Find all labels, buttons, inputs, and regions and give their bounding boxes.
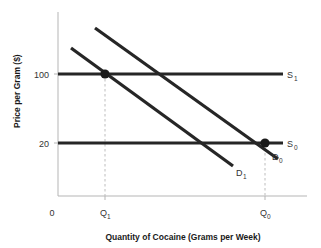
chart-canvas: Price per Gram ($) 100 20 0 Q 1 Q 0 Quan… — [0, 0, 321, 248]
x-tick-label-q1: Q 1 — [100, 208, 111, 220]
x-tick-label-q0-main: Q — [260, 208, 267, 218]
y-tick-label-100: 100 — [34, 70, 49, 80]
demand-curve-d0-label-main: D — [272, 152, 279, 162]
supply-curve-s0-label-main: S — [287, 139, 293, 149]
supply-curve-s0-label: S 0 — [287, 139, 298, 151]
demand-curve-d0 — [95, 28, 278, 159]
equilibrium-dot-q0 — [260, 138, 269, 147]
x-axis-title: Quantity of Cocaine (Grams per Week) — [105, 232, 260, 242]
y-axis-title: Price per Gram ($) — [12, 54, 22, 128]
demand-curve-d1 — [71, 48, 233, 166]
supply-curve-s1-label-sub: 1 — [294, 75, 298, 82]
x-tick-label-q1-main: Q — [100, 208, 107, 218]
x-tick-label-q1-sub: 1 — [107, 213, 111, 220]
x-tick-label-q0: Q 0 — [260, 208, 271, 220]
demand-curve-d1-label-sub: 1 — [243, 173, 247, 180]
x-tick-label-q0-sub: 0 — [267, 213, 271, 220]
y-tick-label-20: 20 — [39, 139, 49, 149]
demand-curve-d1-label-main: D — [236, 168, 243, 178]
demand-curve-d1-label: D 1 — [236, 168, 247, 180]
supply-curve-s1-label-main: S — [287, 70, 293, 80]
demand-curve-d0-label-sub: 0 — [279, 157, 283, 164]
supply-demand-chart: Price per Gram ($) 100 20 0 Q 1 Q 0 Quan… — [0, 0, 321, 248]
equilibrium-dot-q1 — [100, 69, 109, 78]
x-axis-origin-label: 0 — [49, 208, 54, 218]
supply-curve-s1-label: S 1 — [287, 70, 298, 82]
supply-curve-s0-label-sub: 0 — [294, 144, 298, 151]
demand-curve-d0-label: D 0 — [272, 152, 283, 164]
